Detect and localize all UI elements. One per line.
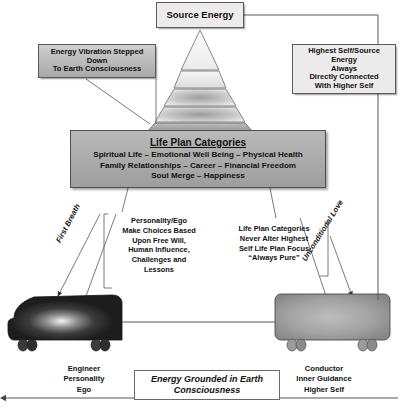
life-plan-leader-lines xyxy=(122,188,276,218)
engineer-vehicle-shape xyxy=(8,295,122,351)
personality-line-2: Make Choices Based xyxy=(110,226,208,236)
personality-line-3: Upon Free Will, xyxy=(110,236,208,246)
highest-self-line-4: With Higher Self xyxy=(296,82,392,91)
source-energy-label: Source Energy xyxy=(166,9,233,20)
conductor-line-1: Conductor xyxy=(272,364,376,374)
personality-ego-annotation: Personality/Ego Make Choices Based Upon … xyxy=(110,216,208,275)
conductor-line-3: Higher Self xyxy=(272,385,376,395)
engineer-line-3: Ego xyxy=(34,385,134,395)
life-plan-line-1: Spiritual Life – Emotional Well Being – … xyxy=(93,150,302,160)
life-plan-title: Life Plan Categories xyxy=(150,137,246,149)
grounded-line-2: Consciousness xyxy=(174,385,241,396)
engineer-line-1: Engineer xyxy=(34,364,134,374)
diagram-canvas: Source Energy Energy Vibration Stepped D… xyxy=(0,0,403,410)
highest-self-line-1: Highest Self/Source Energy xyxy=(296,47,392,65)
conductor-line-2: Inner Guidance xyxy=(272,374,376,384)
life-plan-line-2: Family Relationships – Career – Financia… xyxy=(100,161,296,171)
purity-line-1: Life Plan Categories xyxy=(226,224,322,234)
life-plan-categories-box: Life Plan Categories Spiritual Life – Em… xyxy=(70,130,326,188)
engineer-caption: Engineer Personality Ego xyxy=(34,364,134,395)
vibration-line-3: To Earth Consciousness xyxy=(51,65,144,74)
conductor-caption: Conductor Inner Guidance Higher Self xyxy=(272,364,376,395)
personality-line-6: Lessons xyxy=(110,265,208,275)
vibration-leader-lines xyxy=(86,79,156,124)
personality-line-5: Challenges and xyxy=(110,255,208,265)
highest-self-callout: Highest Self/Source Energy Always Direct… xyxy=(292,44,396,94)
purity-line-2: Never Alter Highest xyxy=(226,234,322,244)
source-energy-box: Source Energy xyxy=(156,2,244,28)
personality-line-1: Personality/Ego xyxy=(110,216,208,226)
personality-line-4: Human Influence, xyxy=(110,245,208,255)
grounded-line-1: Energy Grounded in Earth xyxy=(151,374,263,385)
life-plan-line-3: Soul Merge – Happiness xyxy=(151,171,245,181)
engineer-line-2: Personality xyxy=(34,374,134,384)
pyramid-shape xyxy=(146,30,254,133)
conductor-vehicle-shape xyxy=(275,294,390,351)
energy-grounded-box: Energy Grounded in Earth Consciousness xyxy=(134,370,280,400)
energy-vibration-callout: Energy Vibration Stepped Down To Earth C… xyxy=(38,44,156,78)
